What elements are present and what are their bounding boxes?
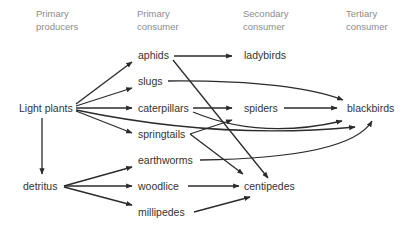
arrow-earthworms-blackbirds: [200, 121, 372, 160]
node-centipedes: centipedes: [244, 180, 295, 192]
header-primary-consumer: Primary consumer: [137, 8, 179, 33]
food-web-diagram: Primary producers Primary consumer Secon…: [0, 0, 413, 230]
arrow-detritus-earthworms: [64, 167, 132, 186]
header-primary-producers: Primary producers: [36, 8, 78, 33]
node-spiders: spiders: [244, 102, 278, 114]
node-earthworms: earthworms: [138, 154, 193, 166]
node-detritus: detritus: [23, 180, 57, 192]
header-tertiary-consumer: Tertiary consumer: [346, 8, 388, 33]
node-caterpillars: caterpillars: [138, 102, 189, 114]
food-web-arrows: [0, 0, 413, 230]
node-blackbirds: blackbirds: [347, 102, 394, 114]
arrow-springtails-centipedes: [190, 134, 243, 174]
arrow-lightplants-springtails: [76, 111, 132, 133]
arrow-lightplants-aphids: [76, 62, 132, 104]
node-slugs: slugs: [138, 75, 163, 87]
arrow-millipedes-centipedes: [194, 197, 250, 212]
header-secondary-consumer: Secondary consumer: [243, 8, 288, 33]
node-woodlice: woodlice: [138, 180, 179, 192]
node-aphids: aphids: [138, 49, 169, 61]
node-millipedes: millipedes: [138, 206, 185, 218]
node-light-plants: Light plants: [19, 102, 73, 114]
arrow-slugs-blackbirds: [168, 81, 343, 100]
arrow-springtails-spiders: [190, 120, 232, 134]
node-springtails: springtails: [138, 128, 185, 140]
node-ladybirds: ladybirds: [244, 49, 286, 61]
arrow-detritus-millipedes: [64, 187, 132, 205]
